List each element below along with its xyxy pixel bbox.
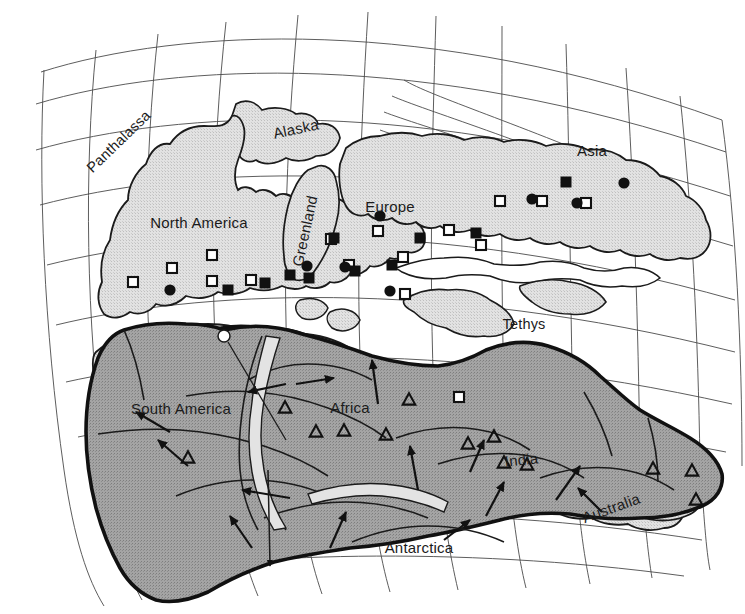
continent-label-antarctica: Antarctica — [385, 539, 454, 556]
open-square-icon — [476, 240, 486, 250]
open-square-icon — [246, 275, 256, 285]
filled-circle-icon — [339, 261, 350, 272]
open-square-icon — [167, 263, 177, 273]
open-square-icon — [373, 226, 383, 236]
filled-circle-icon — [164, 284, 175, 295]
tethys-margin-channel — [396, 257, 660, 287]
filled-square-icon — [387, 260, 397, 270]
continent-label-asia: Asia — [577, 142, 607, 159]
open-square-icon — [495, 196, 505, 206]
filled-circle-icon — [526, 193, 537, 204]
open-square-icon — [454, 392, 464, 402]
filled-square-icon — [285, 270, 295, 280]
filled-square-icon — [415, 233, 425, 243]
open-square-icon — [207, 250, 217, 260]
filled-circle-icon — [618, 177, 629, 188]
open-square-icon — [207, 276, 217, 286]
filled-square-icon — [350, 266, 360, 276]
cimmerian-blocks-landmass — [403, 289, 514, 336]
open-square-icon — [537, 196, 547, 206]
filled-square-icon — [304, 273, 314, 283]
open-square-icon — [128, 277, 138, 287]
iberia-block-landmass — [296, 298, 328, 319]
filled-circle-icon — [571, 197, 582, 208]
filled-square-icon — [260, 278, 270, 288]
filled-square-icon — [329, 233, 339, 243]
filled-square-icon — [223, 285, 233, 295]
open-square-icon — [444, 225, 454, 235]
filled-square-icon — [561, 177, 571, 187]
continent-label-south-america: South America — [131, 400, 232, 417]
map-canvas: North AmericaAlaskaGreenlandEuropeAsiaSo… — [0, 0, 745, 614]
continent-label-north-america: North America — [150, 214, 248, 231]
open-square-icon — [398, 252, 408, 262]
continent-label-india: India — [504, 449, 540, 469]
filled-square-icon — [471, 228, 481, 238]
open-square-icon — [400, 289, 410, 299]
pole-circle-marker — [218, 330, 230, 342]
ocean-label-tethys: Tethys — [502, 316, 545, 332]
continent-label-africa: Africa — [330, 399, 370, 416]
italy-block-landmass — [327, 309, 360, 331]
landmass-group — [86, 101, 722, 601]
continent-label-europe: Europe — [365, 198, 415, 215]
paleogeographic-map: North AmericaAlaskaGreenlandEuropeAsiaSo… — [0, 0, 745, 614]
filled-circle-icon — [384, 285, 395, 296]
